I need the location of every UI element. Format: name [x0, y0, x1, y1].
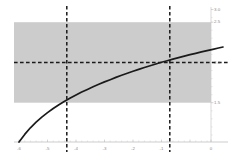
x-tick-label-5: -1: [160, 147, 164, 151]
y-tick-label-2: 2.0: [214, 60, 220, 64]
x-tick-label-3: -3: [103, 147, 107, 151]
y-tick-label-3: 1.5: [214, 100, 220, 104]
x-tick-label-1: -5: [46, 147, 50, 151]
x-tick-label-6: 0: [210, 147, 212, 151]
chart-figure: -6 -5 -4 -3 -2 -1 0 3.0 2.5 2.0 1.5: [0, 0, 231, 158]
plot-area: -6 -5 -4 -3 -2 -1 0 3.0 2.5 2.0 1.5: [0, 0, 231, 158]
x-axis-ticks: [19, 140, 211, 142]
chart-canvas: [0, 0, 231, 158]
x-tick-label-2: -4: [74, 147, 78, 151]
x-tick-label-0: -6: [17, 147, 21, 151]
y-tick-label-0: 3.0: [214, 7, 220, 11]
x-tick-label-4: -2: [131, 147, 135, 151]
y-tick-label-1: 2.5: [214, 20, 220, 24]
